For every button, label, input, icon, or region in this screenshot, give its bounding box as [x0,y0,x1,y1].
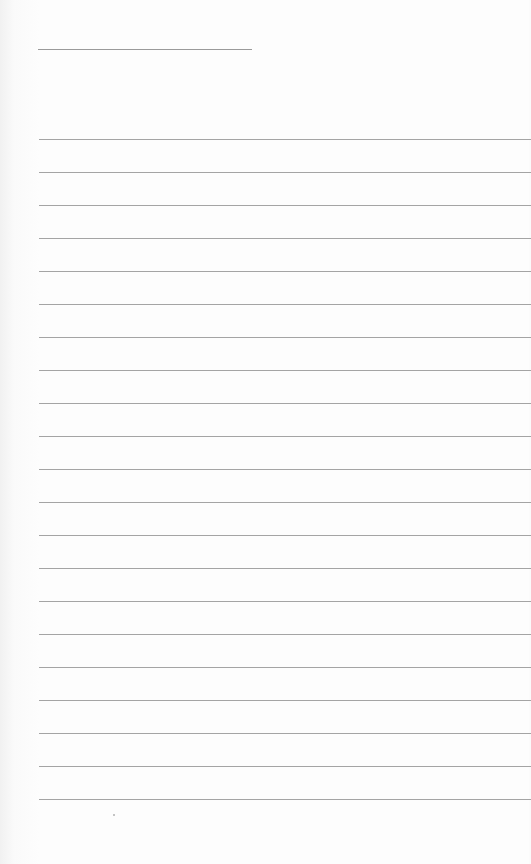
ruled-line [39,403,531,404]
ruled-line [39,634,531,635]
ruled-line [39,469,531,470]
ruled-line [39,667,531,668]
ruled-line [39,271,531,272]
ruled-line [39,502,531,503]
ruled-line [39,436,531,437]
ruled-line [39,139,531,140]
ruled-line [39,370,531,371]
title-line [38,49,252,50]
ruled-line [39,205,531,206]
ruled-line [39,238,531,239]
ruled-line [39,700,531,701]
ruled-line [39,304,531,305]
ruled-line [39,601,531,602]
ruled-line [39,766,531,767]
paper-mark [113,814,115,816]
ruled-line [39,733,531,734]
ruled-line [39,337,531,338]
ruled-line [39,535,531,536]
ruled-line [39,568,531,569]
ruled-line [39,799,531,800]
ruled-line [39,172,531,173]
